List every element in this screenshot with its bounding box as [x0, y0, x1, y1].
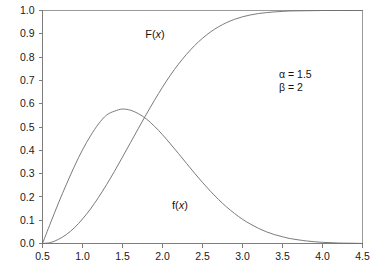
- annotation-beta: β = 2: [279, 81, 303, 93]
- x-tick-label: 2.0: [155, 250, 170, 262]
- x-tick-label: 3.5: [275, 250, 290, 262]
- y-tick-label: 0.7: [20, 74, 35, 86]
- y-tick-label: 0.5: [20, 121, 35, 133]
- y-tick-label: 0.2: [20, 191, 35, 203]
- x-tick-label: 3.0: [235, 250, 250, 262]
- y-tick-label: 0.6: [20, 97, 35, 109]
- curve-label-f: f(x): [172, 199, 188, 211]
- distribution-plot: 0.00.10.20.30.40.50.60.70.80.91.0 0.51.0…: [0, 0, 377, 272]
- x-tick-label: 1.5: [115, 250, 130, 262]
- y-tick-label: 0.3: [20, 167, 35, 179]
- x-tick-label: 4.5: [355, 250, 370, 262]
- y-tick-label: 0.1: [20, 214, 35, 226]
- y-tick-label: 0.0: [20, 237, 35, 249]
- y-tick-label: 0.4: [20, 144, 35, 156]
- curve-label-F-paren-close: ): [161, 28, 165, 40]
- curve-label-f-paren-close: ): [184, 199, 188, 211]
- x-tick-label: 2.5: [195, 250, 210, 262]
- curve-label-F: F(x): [145, 28, 165, 40]
- y-tick-label: 1.0: [20, 4, 35, 16]
- y-tick-label: 0.9: [20, 27, 35, 39]
- x-tick-label: 1.0: [75, 250, 90, 262]
- x-tick-label: 4.0: [315, 250, 330, 262]
- x-tick-label: 0.5: [35, 250, 50, 262]
- y-tick-label: 0.8: [20, 51, 35, 63]
- annotation-alpha: α = 1.5: [279, 68, 312, 80]
- chart-figure: 0.00.10.20.30.40.50.60.70.80.91.0 0.51.0…: [0, 0, 377, 272]
- plot-background: [0, 0, 377, 272]
